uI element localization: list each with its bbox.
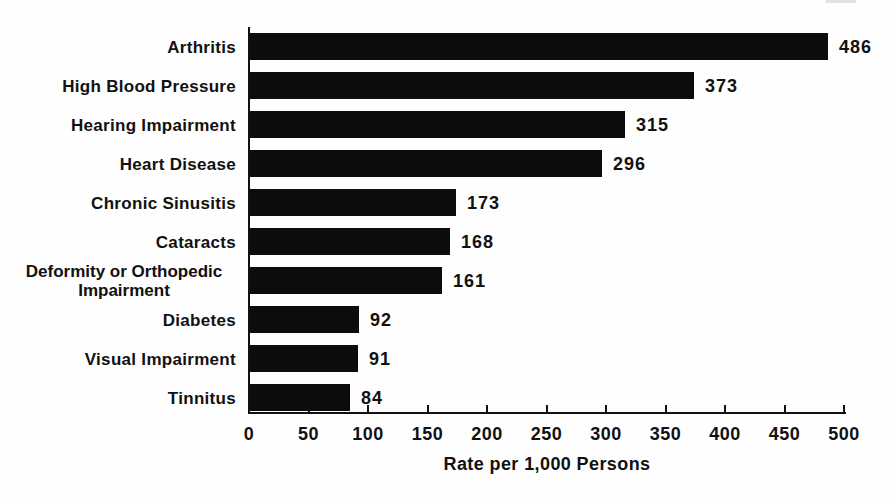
value-label: 296 bbox=[613, 153, 646, 174]
x-tick-label: 400 bbox=[709, 424, 741, 445]
bar bbox=[250, 267, 442, 294]
category-label: Deformity or Orthopedic Impairment bbox=[12, 262, 236, 300]
x-tick bbox=[367, 405, 369, 412]
value-label: 486 bbox=[839, 36, 872, 57]
bar bbox=[250, 228, 450, 255]
category-label: Chronic Sinusitis bbox=[0, 193, 236, 212]
x-tick-label: 350 bbox=[650, 424, 682, 445]
category-label: Diabetes bbox=[0, 310, 236, 329]
x-axis-line bbox=[248, 412, 846, 414]
value-label: 173 bbox=[467, 192, 500, 213]
x-tick bbox=[546, 405, 548, 412]
bar bbox=[250, 345, 358, 372]
value-label: 168 bbox=[461, 231, 494, 252]
category-label: High Blood Pressure bbox=[0, 76, 236, 95]
bar-chart: Rate per 1,000 Persons Arthritis486High … bbox=[0, 0, 892, 498]
value-label: 84 bbox=[361, 387, 383, 408]
value-label: 161 bbox=[453, 270, 486, 291]
value-label: 92 bbox=[370, 309, 392, 330]
x-tick bbox=[605, 405, 607, 412]
category-label: Cataracts bbox=[0, 232, 236, 251]
bar bbox=[250, 189, 456, 216]
value-label: 91 bbox=[369, 348, 391, 369]
x-tick bbox=[843, 405, 845, 412]
x-tick bbox=[665, 405, 667, 412]
x-tick-label: 200 bbox=[471, 424, 503, 445]
bar bbox=[250, 111, 625, 138]
value-label: 373 bbox=[705, 75, 738, 96]
x-tick bbox=[486, 405, 488, 412]
category-label: Arthritis bbox=[0, 37, 236, 56]
x-tick-label: 500 bbox=[828, 424, 860, 445]
x-tick-label: 100 bbox=[352, 424, 384, 445]
bar bbox=[250, 306, 359, 333]
x-tick bbox=[784, 405, 786, 412]
bar bbox=[250, 150, 602, 177]
bar bbox=[250, 72, 694, 99]
category-label: Hearing Impairment bbox=[0, 115, 236, 134]
category-label: Heart Disease bbox=[0, 154, 236, 173]
x-tick-label: 300 bbox=[590, 424, 622, 445]
x-tick bbox=[427, 405, 429, 412]
x-tick-label: 450 bbox=[769, 424, 801, 445]
bar bbox=[250, 33, 828, 60]
bar bbox=[250, 384, 350, 411]
x-tick-label: 250 bbox=[531, 424, 563, 445]
category-label: Tinnitus bbox=[0, 388, 236, 407]
x-axis-title: Rate per 1,000 Persons bbox=[444, 454, 651, 475]
x-tick-label: 50 bbox=[298, 424, 319, 445]
x-tick bbox=[724, 405, 726, 412]
x-tick-label: 150 bbox=[412, 424, 444, 445]
x-tick bbox=[308, 405, 310, 412]
value-label: 315 bbox=[636, 114, 669, 135]
scan-artifact bbox=[826, 0, 856, 3]
x-tick-label: 0 bbox=[244, 424, 255, 445]
category-label: Visual Impairment bbox=[0, 349, 236, 368]
